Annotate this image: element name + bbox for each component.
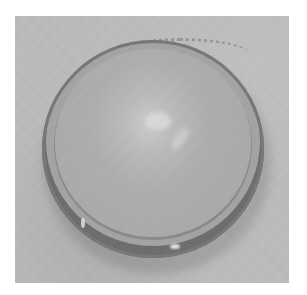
center-highlight — [145, 112, 171, 130]
left-rim-glint — [81, 218, 85, 228]
rim-glint — [170, 244, 180, 249]
photo — [15, 16, 289, 283]
dish-surface — [55, 49, 251, 237]
